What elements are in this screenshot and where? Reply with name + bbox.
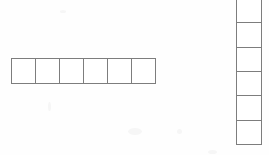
paper-speck xyxy=(177,129,182,134)
strip-cell xyxy=(236,47,262,72)
horizontal-strip xyxy=(11,58,156,84)
figure-canvas xyxy=(0,0,269,155)
strip-cell xyxy=(11,58,36,84)
strip-cell xyxy=(236,95,262,120)
strip-cell xyxy=(35,58,60,84)
strip-cell xyxy=(59,58,84,84)
strip-cell xyxy=(236,0,262,23)
strip-cell xyxy=(83,58,108,84)
strip-cell xyxy=(236,120,262,145)
paper-speck xyxy=(208,150,217,154)
strip-cell xyxy=(236,71,262,96)
paper-speck xyxy=(60,10,66,13)
strip-cell xyxy=(107,58,132,84)
paper-speck xyxy=(48,102,51,111)
strip-cell xyxy=(236,22,262,47)
paper-speck xyxy=(128,128,142,135)
strip-cell xyxy=(131,58,156,84)
vertical-strip xyxy=(236,0,262,145)
